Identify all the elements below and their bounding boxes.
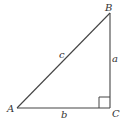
side-label-c: c	[59, 49, 65, 60]
vertex-label-a: A	[6, 103, 14, 114]
vertex-label-b: B	[104, 2, 112, 13]
right-triangle-diagram: B A C c a b	[0, 0, 123, 121]
vertex-label-c: C	[112, 108, 120, 119]
side-label-a: a	[112, 53, 118, 64]
side-label-b: b	[61, 109, 67, 120]
right-angle-marker	[99, 97, 110, 108]
side-c-hypotenuse	[17, 13, 110, 108]
